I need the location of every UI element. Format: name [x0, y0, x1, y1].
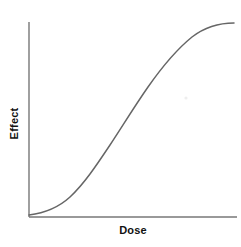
scan-artifact-speck — [184, 96, 187, 99]
y-axis-label-text: Effect — [10, 108, 21, 140]
dose-response-curve — [29, 23, 234, 215]
dose-response-chart: Effect Dose — [0, 0, 241, 247]
plot-area — [0, 0, 241, 247]
y-axis-label: Effect — [0, 0, 30, 247]
x-axis-label: Dose — [29, 225, 237, 236]
